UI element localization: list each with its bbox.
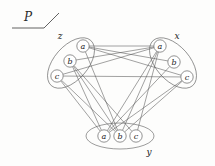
- nodes-layer: abcabcabc: [51, 40, 193, 142]
- graph-canvas: P abcabcabc zxy: [0, 0, 215, 166]
- group-label-x: x: [174, 31, 179, 41]
- graph-edge: [89, 48, 181, 75]
- node-label-y_a: a: [102, 132, 107, 141]
- group-label-y: y: [145, 147, 152, 157]
- node-label-y_b: b: [117, 132, 122, 141]
- edges-layer: [61, 46, 183, 132]
- corner-rule-marks: [12, 13, 59, 28]
- node-label-z_c: c: [55, 72, 60, 81]
- node-label-x_c: c: [185, 73, 190, 82]
- node-label-z_b: b: [67, 57, 72, 66]
- node-label-z_a: a: [81, 42, 86, 51]
- graph-edge: [107, 51, 156, 130]
- corner-slash: [44, 13, 59, 28]
- graph-edge: [109, 81, 182, 133]
- figure-corner-label-p: P: [23, 10, 33, 24]
- node-label-y_c: c: [134, 132, 139, 141]
- group-label-z: z: [57, 31, 63, 41]
- graph-edge: [138, 52, 159, 130]
- graph-figure: P abcabcabc zxy: [0, 0, 215, 166]
- graph-edge: [63, 48, 154, 75]
- node-label-x_a: a: [158, 42, 163, 51]
- node-label-x_b: b: [171, 58, 176, 67]
